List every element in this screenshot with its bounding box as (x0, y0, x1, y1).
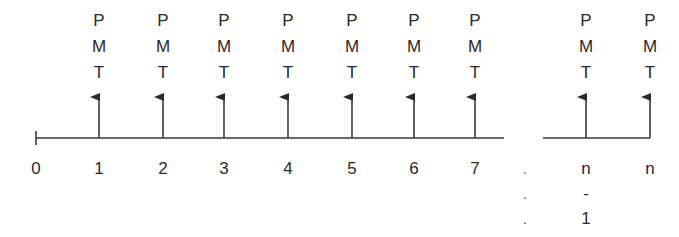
period-label: 4 (283, 159, 292, 178)
pmt-label-letter: T (581, 63, 591, 82)
pmt-label-letter: M (345, 37, 359, 56)
period-label: n (581, 159, 590, 178)
pmt-label-letter: T (470, 63, 480, 82)
ellipsis-dots: ... (523, 161, 527, 227)
period-label: 3 (219, 159, 228, 178)
pmt-label-letter: M (281, 37, 295, 56)
pmt-label-letter: T (283, 63, 293, 82)
pmt-label-letter: T (409, 63, 419, 82)
pmt-label-letter: P (644, 11, 655, 30)
pmt-label-letter: T (158, 63, 168, 82)
period-label: 1 (94, 159, 103, 178)
payment-arrows (99, 97, 650, 138)
period-label: 5 (347, 159, 356, 178)
pmt-label-letter: M (643, 37, 657, 56)
period-label: n (645, 159, 654, 178)
pmt-label-letter: P (218, 11, 229, 30)
pmt-label-letter: T (347, 63, 357, 82)
pmt-label-letter: P (408, 11, 419, 30)
ellipsis-dot: . (523, 161, 527, 177)
pmt-label-letter: P (346, 11, 357, 30)
period-label: 6 (409, 159, 418, 178)
pmt-label-letter: P (282, 11, 293, 30)
period-label: 7 (470, 159, 479, 178)
pmt-label-letter: P (469, 11, 480, 30)
pmt-label-letter: T (219, 63, 229, 82)
pmt-label-letter: M (407, 37, 421, 56)
pmt-label-letter: M (217, 37, 231, 56)
pmt-label-letter: T (645, 63, 655, 82)
pmt-labels: PMTPMTPMTPMTPMTPMTPMTPMTPMT (92, 11, 657, 82)
pmt-label-letter: M (468, 37, 482, 56)
pmt-label-letter: P (157, 11, 168, 30)
period-label: 2 (158, 159, 167, 178)
period-label: 0 (31, 159, 40, 178)
ellipsis-dot: . (523, 211, 527, 227)
period-label: 1 (581, 209, 590, 228)
pmt-label-letter: M (92, 37, 106, 56)
pmt-label-letter: T (94, 63, 104, 82)
period-labels: 01234567n-1n (31, 159, 654, 228)
pmt-label-letter: M (579, 37, 593, 56)
ellipsis-dot: . (523, 186, 527, 202)
period-label: - (583, 184, 589, 203)
annuity-timeline-diagram: PMTPMTPMTPMTPMTPMTPMTPMTPMT 01234567n-1n… (0, 0, 679, 237)
pmt-label-letter: P (93, 11, 104, 30)
pmt-label-letter: M (156, 37, 170, 56)
pmt-label-letter: P (580, 11, 591, 30)
timeline (36, 131, 650, 145)
